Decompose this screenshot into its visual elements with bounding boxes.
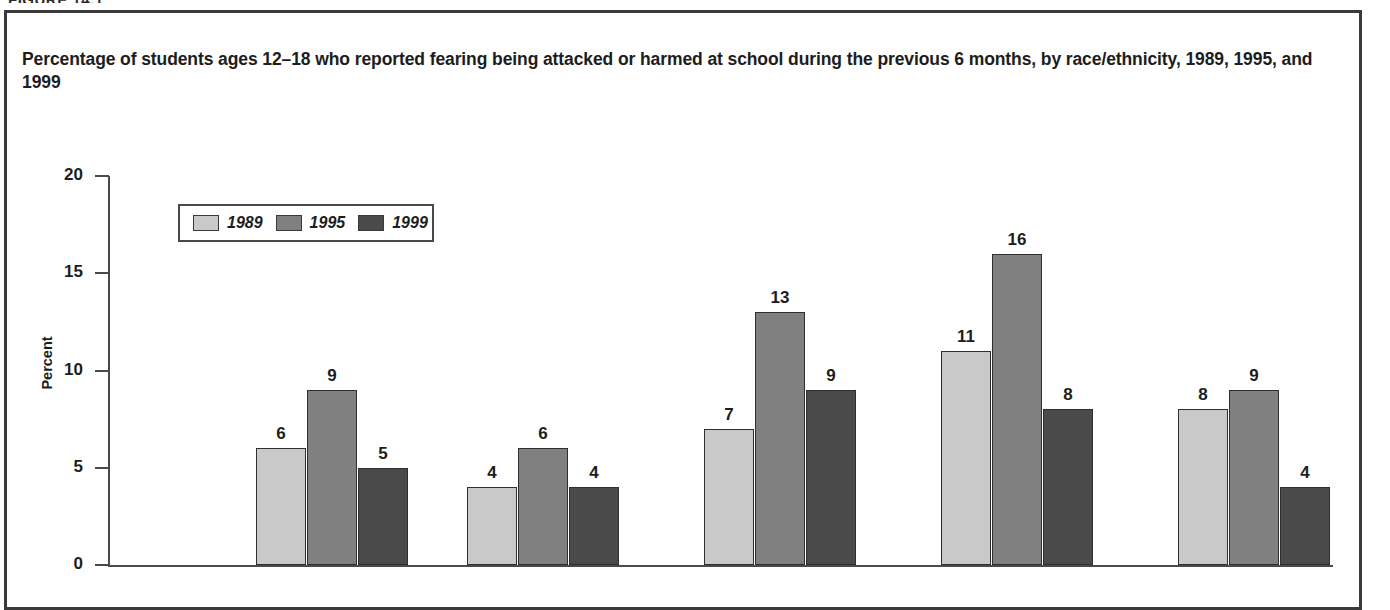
bar-1995-group1[interactable] <box>307 390 357 565</box>
bar-1989-group2[interactable] <box>467 487 517 565</box>
bar-1999-group1[interactable] <box>358 468 408 565</box>
legend-label: 1999 <box>392 214 428 232</box>
legend-entry-1999[interactable]: 1999 <box>358 214 428 232</box>
bar-1999-group3[interactable] <box>806 390 856 565</box>
bar-1999-group2[interactable] <box>569 487 619 565</box>
bar-value-label: 4 <box>1270 463 1340 483</box>
bar-value-label: 8 <box>1033 385 1103 405</box>
legend-swatch-icon <box>276 215 302 231</box>
bar-1989-group4[interactable] <box>941 351 991 565</box>
bar-1989-group1[interactable] <box>256 448 306 565</box>
bar-1995-group4[interactable] <box>992 254 1042 565</box>
bar-value-label: 4 <box>559 463 629 483</box>
bar-value-label: 16 <box>982 230 1052 250</box>
bar-value-label: 13 <box>745 288 815 308</box>
bar-1989-group5[interactable] <box>1178 409 1228 565</box>
bar-value-label: 9 <box>796 366 866 386</box>
bar-value-label: 9 <box>1219 366 1289 386</box>
y-tick-label: 5 <box>43 457 83 477</box>
bar-value-label: 8 <box>1168 385 1238 405</box>
x-axis-line <box>108 565 1333 567</box>
y-tick-mark <box>95 370 109 372</box>
bar-value-label: 6 <box>246 424 316 444</box>
bar-value-label: 9 <box>297 366 367 386</box>
bar-value-label: 11 <box>931 327 1001 347</box>
legend-label: 1989 <box>227 214 263 232</box>
y-tick-label: 0 <box>43 554 83 574</box>
y-tick-mark <box>95 467 109 469</box>
chart-legend: 198919951999 <box>178 204 434 242</box>
bar-value-label: 6 <box>508 424 578 444</box>
legend-entry-1989[interactable]: 1989 <box>193 214 263 232</box>
y-tick-label: 20 <box>43 165 83 185</box>
legend-label: 1995 <box>310 214 346 232</box>
bar-1995-group3[interactable] <box>755 312 805 565</box>
bar-1999-group4[interactable] <box>1043 409 1093 565</box>
legend-swatch-icon <box>358 215 384 231</box>
y-tick-mark <box>95 272 109 274</box>
bar-value-label: 4 <box>457 463 527 483</box>
y-tick-mark <box>95 564 109 566</box>
bar-value-label: 5 <box>348 444 418 464</box>
legend-swatch-icon <box>193 215 219 231</box>
bar-1989-group3[interactable] <box>704 429 754 565</box>
bar-value-label: 7 <box>694 405 764 425</box>
y-tick-label: 15 <box>43 262 83 282</box>
y-tick-mark <box>95 175 109 177</box>
y-tick-label: 10 <box>43 360 83 380</box>
legend-entry-1995[interactable]: 1995 <box>276 214 346 232</box>
bar-1999-group5[interactable] <box>1280 487 1330 565</box>
